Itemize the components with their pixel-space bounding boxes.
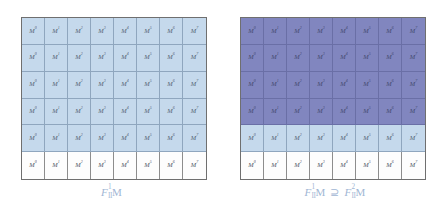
grid-cell: M7 xyxy=(183,99,206,126)
cell-label: M4 xyxy=(121,134,129,141)
grid-cell: M1 xyxy=(264,18,287,45)
cell-label: M0 xyxy=(29,134,37,141)
cell-label-superscript: 0 xyxy=(35,132,37,137)
grid-cell: M7 xyxy=(402,125,425,152)
grid-cell: M6 xyxy=(379,99,402,126)
grid-cell: M0 xyxy=(22,18,45,45)
cell-label: M7 xyxy=(410,81,418,88)
cell-label: M5 xyxy=(363,81,371,88)
cell-label-superscript: 7 xyxy=(196,160,198,165)
cell-label: M1 xyxy=(52,108,60,115)
grid-cell: M3 xyxy=(91,152,114,179)
cell-label: M1 xyxy=(52,134,60,141)
cell-label-superscript: 2 xyxy=(81,106,83,111)
grid-cell: M7 xyxy=(183,72,206,99)
grid-cell: M4 xyxy=(114,45,137,72)
grid-cell: M2 xyxy=(287,99,310,126)
cell-label-superscript: 4 xyxy=(346,160,348,165)
grid-cell: M1 xyxy=(45,125,68,152)
cell-label: M2 xyxy=(294,81,302,88)
grid-cell: M5 xyxy=(356,125,379,152)
cell-label-superscript: 6 xyxy=(173,160,175,165)
cell-label-superscript: 6 xyxy=(392,132,394,137)
grid-cell: M6 xyxy=(379,72,402,99)
grid-cell: M3 xyxy=(310,152,333,179)
grid-cell: M4 xyxy=(114,125,137,152)
cell-label: M0 xyxy=(248,162,256,169)
cell-label: M5 xyxy=(144,54,152,61)
filtration-figure: M0M1M2M3M4M5M6M7M0M1M2M3M4M5M6M7M0M1M2M3… xyxy=(0,0,447,221)
cell-label: M3 xyxy=(98,162,106,169)
cell-label: M1 xyxy=(52,162,60,169)
grid-cell: M6 xyxy=(160,99,183,126)
cell-label: M3 xyxy=(317,27,325,34)
grid-cell: M4 xyxy=(114,152,137,179)
cell-label-superscript: 2 xyxy=(81,52,83,57)
cell-label: M1 xyxy=(271,27,279,34)
cell-label: M6 xyxy=(167,27,175,34)
cell-label: M5 xyxy=(363,162,371,169)
grid-cell: M1 xyxy=(45,152,68,179)
caption-left-module-letter: M xyxy=(112,186,122,198)
grid-cell: M3 xyxy=(91,99,114,126)
cell-label: M3 xyxy=(98,108,106,115)
cell-label-superscript: 3 xyxy=(104,52,106,57)
cell-label-superscript: 7 xyxy=(415,160,417,165)
grid-cell: M2 xyxy=(68,72,91,99)
grid-cell: M5 xyxy=(137,18,160,45)
cell-label: M5 xyxy=(363,27,371,34)
cell-label: M2 xyxy=(294,54,302,61)
cell-label: M5 xyxy=(144,81,152,88)
cell-label-superscript: 0 xyxy=(35,25,37,30)
grid-cell: M6 xyxy=(160,152,183,179)
caption-right-module-letter-1: M xyxy=(315,186,325,198)
cell-label-superscript: 3 xyxy=(104,79,106,84)
grid-cell: M1 xyxy=(45,72,68,99)
grid-cell: M4 xyxy=(333,72,356,99)
cell-label: M6 xyxy=(386,81,394,88)
grid-cell: M4 xyxy=(114,99,137,126)
grid-cell: M1 xyxy=(45,99,68,126)
grid-cell: M0 xyxy=(22,152,45,179)
cell-label: M7 xyxy=(191,162,199,169)
grid-cell: M0 xyxy=(241,72,264,99)
grid-cell: M6 xyxy=(379,125,402,152)
cell-label: M3 xyxy=(317,162,325,169)
cell-label-superscript: 4 xyxy=(346,132,348,137)
cell-label: M2 xyxy=(294,134,302,141)
cell-label: M4 xyxy=(340,54,348,61)
cell-label: M0 xyxy=(29,54,37,61)
grid-cell: M7 xyxy=(402,99,425,126)
cell-label: M7 xyxy=(191,81,199,88)
cell-label: M0 xyxy=(248,81,256,88)
caption-right-f2-letter: F xyxy=(345,186,352,198)
grid-cell: M4 xyxy=(333,125,356,152)
cell-label-superscript: 1 xyxy=(58,132,60,137)
grid-cell: M3 xyxy=(310,125,333,152)
grid-cell: M2 xyxy=(68,45,91,72)
grid-cell: M1 xyxy=(264,152,287,179)
caption-right-f1-subscript: II xyxy=(311,192,315,200)
cell-label-superscript: 7 xyxy=(415,132,417,137)
cell-label: M5 xyxy=(363,108,371,115)
grid-cell: M1 xyxy=(45,18,68,45)
cell-label-superscript: 6 xyxy=(173,106,175,111)
cell-label: M5 xyxy=(144,134,152,141)
cell-label-superscript: 6 xyxy=(173,132,175,137)
cell-label-superscript: 4 xyxy=(346,79,348,84)
cell-label-superscript: 7 xyxy=(196,52,198,57)
grid-right: M0M1M2M3M4M5M6M7M0M1M2M3M4M5M6M7M0M1M2M3… xyxy=(240,17,426,180)
grid-cell: M4 xyxy=(114,72,137,99)
grid-cell: M6 xyxy=(379,45,402,72)
cell-label: M0 xyxy=(248,108,256,115)
cell-label-superscript: 5 xyxy=(369,52,371,57)
cell-label: M1 xyxy=(52,27,60,34)
grid-cell: M3 xyxy=(91,45,114,72)
cell-label-superscript: 0 xyxy=(254,52,256,57)
grid-cell: M3 xyxy=(310,72,333,99)
cell-label: M3 xyxy=(98,81,106,88)
cell-label: M1 xyxy=(271,162,279,169)
cell-label-superscript: 0 xyxy=(35,160,37,165)
cell-label: M2 xyxy=(75,54,83,61)
grid-cell: M2 xyxy=(68,99,91,126)
